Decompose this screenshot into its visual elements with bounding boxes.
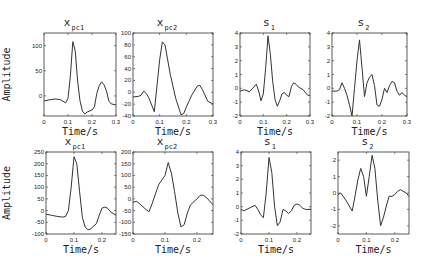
y-tick-label: -150	[119, 231, 132, 237]
y-tick-label: -2	[331, 223, 337, 229]
x-tick-label: 0.3	[209, 119, 218, 125]
figure: 00.10.20.3050100xpc1Time/sAmplitude00.10…	[0, 0, 426, 271]
y-tick-label: 20	[124, 77, 131, 83]
x-tick-label: 0	[131, 119, 135, 125]
y-tick-label: 2	[236, 176, 240, 182]
y-tick-label: 1	[235, 72, 239, 78]
chart-panel-top-2: 00.10.20.3-40-20020406080100xpc2Time/s	[121, 16, 218, 137]
x-axis-label: Time/s	[351, 126, 387, 137]
x-tick-label: 0	[336, 237, 340, 243]
y-tick-label: 50	[124, 184, 131, 190]
y-tick-label: 250	[34, 149, 45, 155]
x-axis-label: Time/s	[355, 244, 391, 255]
x-tick-label: 0.2	[293, 237, 302, 243]
x-tick-label: 0.2	[193, 237, 202, 243]
signal-curve	[44, 42, 116, 114]
y-tick-label: 0	[39, 93, 43, 99]
y-tick-label: -20	[122, 101, 131, 107]
plot-frame	[240, 33, 310, 116]
y-tick-label: 2	[235, 58, 239, 64]
plot-frame	[133, 152, 213, 234]
y-tick-label: 200	[34, 161, 45, 167]
y-tick-label: 50	[37, 196, 44, 202]
y-axis-label: Amplitude	[1, 47, 12, 101]
y-tick-label: 100	[34, 184, 45, 190]
x-tick-label: 0.3	[403, 119, 412, 125]
plot-frame	[44, 33, 116, 116]
y-tick-label: 80	[124, 42, 131, 48]
y-tick-label: -1	[331, 206, 337, 212]
chart-panel-top-3: 00.10.20.3-2-101234s1Time/s	[233, 16, 315, 137]
plot-frame	[332, 33, 407, 116]
y-tick-label: 1	[333, 174, 337, 180]
y-tick-label: -50	[35, 219, 44, 225]
x-tick-label: 0.1	[161, 237, 170, 243]
x-axis-label: Time/s	[155, 244, 191, 255]
plot-frame	[133, 33, 213, 116]
x-axis-label: Time/s	[257, 126, 293, 137]
y-tick-label: 3	[327, 44, 331, 50]
y-tick-label: -2	[233, 113, 239, 119]
y-tick-label: 4	[327, 30, 331, 36]
signal-curve	[133, 42, 213, 115]
x-tick-label: 0.1	[362, 237, 371, 243]
y-tick-label: -1	[325, 99, 331, 105]
chart-panel-bottom-4: 00.10.2-2-1012s2Time/s	[331, 135, 409, 255]
y-tick-label: 2	[333, 157, 337, 163]
y-tick-label: 4	[236, 149, 240, 155]
panel-title: xpc1	[64, 16, 84, 32]
y-tick-label: 4	[235, 30, 239, 36]
plot-frame	[46, 152, 116, 234]
signal-curve	[133, 163, 213, 228]
x-tick-label: 0	[42, 119, 46, 125]
x-tick-label: 0.2	[88, 119, 97, 125]
x-tick-label: 0.1	[64, 119, 73, 125]
plot-frame	[338, 152, 409, 234]
x-tick-label: 0	[330, 119, 334, 125]
panel-title: s2	[358, 16, 370, 32]
x-tick-label: 0	[44, 237, 48, 243]
chart-panel-bottom-1: 00.10.2-100-50050100150200250xpc1Time/sA…	[1, 135, 116, 255]
signal-curve	[46, 157, 116, 230]
x-tick-label: 0.1	[70, 237, 79, 243]
x-tick-label: 0.1	[259, 119, 268, 125]
y-tick-label: 3	[236, 163, 240, 169]
panel-title: s1	[263, 16, 275, 32]
x-tick-label: 0.2	[182, 119, 191, 125]
y-tick-label: 40	[124, 66, 131, 72]
panel-title: xpc1	[65, 135, 85, 151]
signal-curve	[241, 158, 311, 226]
y-tick-label: 100	[32, 43, 43, 49]
y-tick-label: 0	[327, 85, 331, 91]
chart-panel-bottom-3: 00.10.2-2-101234s1Time/s	[234, 135, 311, 255]
y-tick-label: -40	[122, 113, 131, 119]
chart-panel-top-1: 00.10.20.3050100xpc1Time/sAmplitude	[1, 16, 121, 137]
y-tick-label: 0	[128, 196, 132, 202]
y-tick-label: -1	[233, 99, 239, 105]
y-tick-label: 100	[121, 172, 132, 178]
y-tick-label: 3	[235, 44, 239, 50]
x-axis-label: Time/s	[63, 244, 99, 255]
panel-title: xpc2	[157, 16, 177, 32]
x-tick-label: 0.2	[98, 237, 107, 243]
chart-panel-bottom-2: 00.10.2-150-100-50050100150200xpc2Time/s	[119, 135, 213, 255]
panel-title: xpc2	[157, 135, 177, 151]
x-tick-label: 0	[131, 237, 135, 243]
y-tick-label: -100	[119, 219, 132, 225]
panel-title: s2	[362, 135, 374, 151]
x-tick-label: 0.1	[265, 237, 274, 243]
x-tick-label: 0.1	[155, 119, 164, 125]
x-tick-label: 0.3	[306, 119, 315, 125]
y-tick-label: 150	[34, 172, 45, 178]
y-tick-label: 1	[327, 72, 331, 78]
y-tick-label: 60	[124, 54, 131, 60]
y-tick-label: 0	[41, 208, 45, 214]
x-tick-label: 0.1	[353, 119, 362, 125]
x-tick-label: 0.3	[112, 119, 121, 125]
signal-curve	[338, 155, 409, 226]
y-tick-label: 50	[35, 68, 42, 74]
y-tick-label: 2	[327, 58, 331, 64]
plot-frame	[241, 152, 311, 234]
x-tick-label: 0	[239, 237, 243, 243]
y-tick-label: -2	[234, 231, 240, 237]
